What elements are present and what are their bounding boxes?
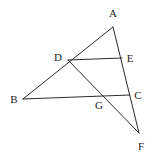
segment-b-c (23, 95, 130, 99)
geometry-figure: A B C D E F G (0, 0, 152, 161)
segment-a-b (23, 27, 113, 99)
vertex-label-b: B (10, 94, 17, 105)
segment-a-f (113, 27, 139, 133)
segment-d-e (68, 58, 122, 60)
vertex-label-a: A (109, 8, 117, 19)
vertex-label-f: F (138, 141, 144, 152)
vertex-label-c: C (134, 90, 141, 101)
vertex-label-e: E (127, 53, 134, 64)
vertex-label-d: D (54, 52, 62, 63)
geometry-canvas (0, 0, 152, 161)
vertex-label-g: G (95, 100, 103, 111)
